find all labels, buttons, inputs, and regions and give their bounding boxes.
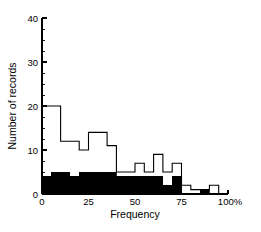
filled-bar — [172, 176, 181, 194]
y-axis-tick-label: 10 — [27, 145, 38, 156]
x-axis-tick-label: 75 — [176, 196, 187, 207]
filled-bar — [144, 176, 153, 194]
x-axis-tick-label: 0 — [39, 196, 44, 207]
x-axis-tick-label: 100% — [218, 196, 243, 207]
filled-bar — [135, 176, 144, 194]
filled-bar — [61, 172, 70, 194]
chart-canvas: 010203040 0255075100% Frequency Number o… — [0, 0, 261, 232]
y-axis-tick-label: 30 — [27, 57, 38, 68]
filled-bar — [42, 176, 51, 194]
filled-bar — [89, 172, 98, 194]
x-axis-tick-labels: 0255075100% — [39, 196, 242, 207]
x-axis-tick-label: 25 — [83, 196, 94, 207]
filled-bar — [98, 172, 107, 194]
y-axis-tick-label: 0 — [33, 189, 38, 200]
y-axis-tick-label: 40 — [27, 13, 38, 24]
filled-bar — [126, 176, 135, 194]
filled-bar — [154, 176, 163, 194]
filled-bar — [70, 176, 79, 194]
filled-bar — [163, 185, 172, 194]
histogram-figure: 010203040 0255075100% Frequency Number o… — [0, 0, 261, 232]
filled-bar — [116, 176, 125, 194]
x-axis-title: Frequency — [110, 208, 160, 220]
filled-bar — [51, 172, 60, 194]
y-axis-tick-labels: 010203040 — [27, 13, 38, 200]
x-axis-tick-label: 50 — [130, 196, 141, 207]
filled-bar — [107, 172, 116, 194]
y-axis-title: Number of records — [6, 63, 18, 150]
filled-bar — [200, 190, 209, 194]
y-axis-tick-label: 20 — [27, 101, 38, 112]
filled-bar — [79, 172, 88, 194]
